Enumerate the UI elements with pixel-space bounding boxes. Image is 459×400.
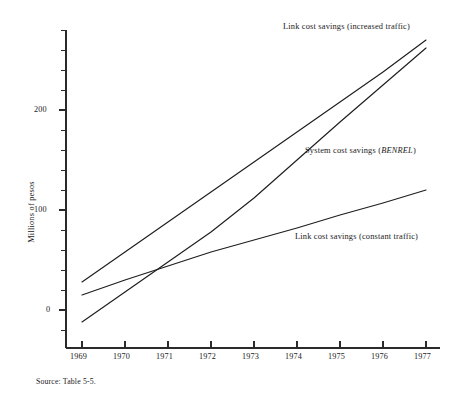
x-tick-label-1973: 1973 bbox=[242, 352, 259, 361]
series-line-link-cost-savings-constant-traffic bbox=[82, 190, 426, 295]
x-tick-label-1969: 1969 bbox=[70, 352, 87, 361]
series-line-link-cost-savings-increased-traffic bbox=[82, 40, 426, 282]
x-axis-ticks bbox=[82, 341, 426, 348]
annotation-benrel-suffix: ) bbox=[413, 146, 416, 155]
x-tick-label-1971: 1971 bbox=[156, 352, 173, 361]
chart-plot-area: Millions of pesos bbox=[0, 0, 459, 400]
annotation-benrel-prefix: System cost savings ( bbox=[305, 146, 381, 155]
annotation-system-cost-savings-benrel: System cost savings (BENREL) bbox=[305, 146, 416, 155]
annotation-link-cost-savings-increased-traffic: Link cost savings (increased traffic) bbox=[283, 22, 410, 31]
x-tick-label-1977: 1977 bbox=[414, 352, 431, 361]
y-tick-label-100: 100 bbox=[34, 205, 47, 214]
x-tick-label-1970: 1970 bbox=[113, 352, 130, 361]
y-axis-minor-ticks bbox=[61, 30, 66, 330]
annotation-link-cost-savings-constant-traffic: Link cost savings (constant traffic) bbox=[295, 232, 418, 241]
y-axis-major-ticks bbox=[59, 110, 66, 310]
y-tick-label-0: 0 bbox=[46, 305, 50, 314]
y-tick-label-200: 200 bbox=[34, 105, 47, 114]
x-tick-label-1976: 1976 bbox=[371, 352, 388, 361]
figure-container: Millions of pesos 0 100 200 1969 1970 19… bbox=[0, 0, 459, 400]
x-tick-label-1972: 1972 bbox=[199, 352, 216, 361]
x-tick-label-1975: 1975 bbox=[328, 352, 345, 361]
source-note: Source: Table 5-5. bbox=[36, 377, 96, 386]
x-tick-label-1974: 1974 bbox=[285, 352, 302, 361]
series-line-system-cost-savings-benrel bbox=[82, 48, 426, 322]
annotation-benrel-italic: BENREL bbox=[381, 146, 413, 155]
